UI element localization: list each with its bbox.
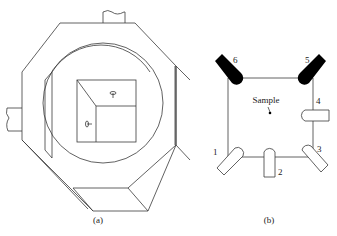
- rotation-mark-top: [110, 92, 116, 99]
- detector-3-shape: [302, 145, 328, 172]
- right-bevel-face: [176, 66, 190, 145]
- detector-3-label: 3: [317, 144, 322, 154]
- panel-a-chamber: (a): [6, 11, 190, 226]
- detector-2: 2: [264, 148, 283, 177]
- detector-6-shape: [215, 54, 243, 85]
- detector-5-shape: [298, 54, 326, 85]
- sample-cube: [77, 80, 136, 142]
- bottom-bevel-face: [73, 188, 93, 211]
- sample-label: Sample: [253, 95, 280, 105]
- panel-a-caption: (a): [93, 215, 103, 225]
- detector-4-label: 4: [316, 96, 321, 106]
- detector-1-shape: [217, 147, 244, 175]
- sample-dot: [269, 112, 272, 115]
- detector-6: 6: [215, 54, 243, 85]
- rotation-mark-left: [86, 121, 93, 127]
- left-bottom-edge: [22, 140, 88, 209]
- top-port-tab: [103, 11, 125, 24]
- bore-inner-arc: [52, 45, 150, 72]
- sample-pointer: [268, 107, 270, 112]
- detector-4: 4: [301, 96, 329, 121]
- panel-b-detector-layout: 6 5 4 3 2 1 Sample (b): [213, 54, 329, 225]
- detector-5: 5: [298, 54, 326, 85]
- detector-5-label: 5: [305, 55, 310, 65]
- detector-1-label: 1: [213, 147, 218, 157]
- detector-2-shape: [264, 148, 275, 177]
- panel-b-caption: (b): [264, 215, 275, 225]
- cube-edges: [77, 80, 136, 142]
- left-port-tab: [6, 108, 22, 131]
- detector-6-label: 6: [233, 55, 238, 65]
- bottom-right-bevel-face: [73, 145, 176, 211]
- bottom-right-edge: [176, 145, 190, 160]
- figure-canvas: (a) 6 5 4 3 2: [0, 0, 337, 236]
- detector-3: 3: [302, 144, 328, 172]
- detector-2-label: 2: [278, 167, 283, 177]
- detector-frame: [228, 78, 313, 157]
- detector-4-shape: [301, 110, 329, 121]
